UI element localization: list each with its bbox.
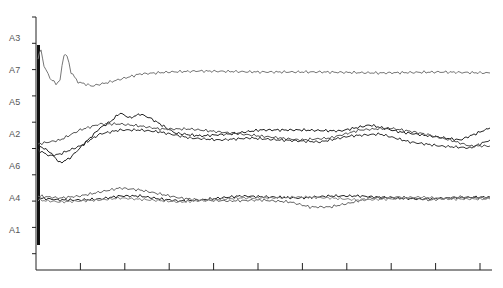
y-row-label: A1 xyxy=(9,225,21,235)
y-row-label: A7 xyxy=(9,65,21,75)
y-row-label: A2 xyxy=(9,129,21,139)
series-line xyxy=(38,113,490,163)
series-line xyxy=(38,129,490,157)
y-row-label: A5 xyxy=(9,97,21,107)
series-line xyxy=(38,50,490,86)
trace-chart xyxy=(0,0,503,288)
y-row-label: A6 xyxy=(9,161,21,171)
series-lines xyxy=(38,50,490,209)
axes xyxy=(36,17,492,270)
x-ticks xyxy=(80,263,480,270)
y-row-label: A4 xyxy=(9,193,21,203)
y-row-label: A3 xyxy=(9,33,21,43)
y-ticks xyxy=(32,17,36,254)
